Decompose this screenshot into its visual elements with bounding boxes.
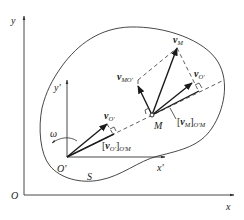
outer-origin-label: O bbox=[11, 190, 18, 201]
proj-vm-leader bbox=[170, 108, 176, 119]
rigid-body-outline bbox=[40, 27, 224, 181]
inner-origin-label: O' bbox=[57, 163, 67, 174]
v-mo-label: vMO' bbox=[117, 71, 134, 83]
inner-y-label: y' bbox=[53, 82, 61, 93]
outer-x-label: x bbox=[225, 201, 231, 212]
proj-vm-label: [vM]O'M bbox=[177, 116, 206, 128]
point-m-label: M bbox=[153, 120, 163, 131]
inner-x-label: x' bbox=[156, 162, 164, 173]
v-o-at-o-label: vO' bbox=[104, 110, 115, 122]
v-o-at-m-label: vO' bbox=[194, 68, 205, 80]
vectors-at-m: M vM vMO' vO' [vM]O'M bbox=[117, 34, 206, 131]
vectors-at-origin: vO' [vO']O'M bbox=[67, 110, 131, 157]
proj-vo-label: [vO']O'M bbox=[102, 140, 131, 152]
point-m-marker bbox=[150, 113, 154, 117]
body-label: S bbox=[87, 171, 92, 182]
angular-velocity: ω bbox=[50, 128, 77, 143]
velocity-diagram: y x O y' x' O' S ω vO' [vO']O'M bbox=[0, 0, 244, 220]
omega-label: ω bbox=[50, 128, 57, 139]
outer-y-label: y bbox=[10, 15, 16, 26]
